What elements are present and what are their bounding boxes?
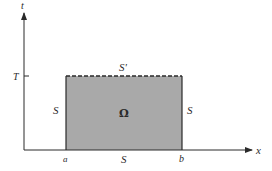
t-axis-label: t — [21, 0, 24, 11]
tick-label-a: a — [63, 154, 68, 164]
boundary-right-label: S — [187, 104, 193, 116]
boundary-left-label: S — [53, 104, 59, 116]
boundary-bottom-label: S — [121, 153, 127, 165]
t-tick-label: T — [13, 71, 20, 82]
region-omega-label: Ω — [119, 107, 129, 120]
x-axis-label: x — [255, 144, 261, 156]
tick-label-b: b — [179, 153, 184, 164]
boundary-top-label: S' — [119, 61, 128, 73]
diagram-canvas: t T x a b S' S S S Ω — [0, 0, 272, 171]
